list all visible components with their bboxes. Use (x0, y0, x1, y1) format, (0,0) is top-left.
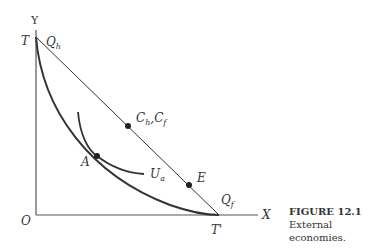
label-t-prime: T' (211, 223, 222, 237)
label-t: T (21, 34, 30, 48)
label-e: E (196, 171, 206, 185)
label-ua: Ua (150, 167, 165, 183)
figure-caption: FIGURE 12.1 External economies. (289, 205, 392, 244)
point-a (94, 153, 100, 159)
point-e (186, 182, 192, 188)
label-qh: Qh (46, 35, 61, 51)
y-axis-label: Y (30, 14, 39, 27)
figure-number: FIGURE 12.1 (289, 205, 392, 218)
label-a: A (80, 155, 90, 169)
origin-label: O (21, 214, 31, 228)
label-ch-cf: Ch,Cf (136, 111, 168, 127)
label-qf: Qf (221, 193, 236, 209)
figure-caption-text: External economies. (289, 218, 392, 244)
x-axis-label: X (261, 208, 271, 222)
point-c (125, 123, 131, 129)
